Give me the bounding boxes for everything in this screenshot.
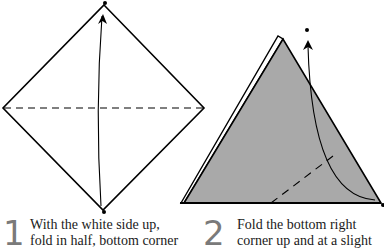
step-1-number: 1: [3, 216, 25, 250]
step-2-number: 2: [203, 216, 225, 250]
step-2-diagram: [180, 28, 384, 207]
step-1-instruction: With the white side up, fold in half, bo…: [30, 217, 178, 249]
step-2-instruction: Fold the bottom right corner up and at a…: [237, 217, 372, 249]
step-2-line-2: corner up and at a slight: [237, 233, 372, 249]
step-1-diagram: [3, 1, 204, 214]
top-corner-dot-icon: [103, 1, 107, 5]
step-1-line-1: With the white side up,: [30, 217, 178, 233]
triangle-paper-colored: [184, 39, 381, 203]
target-dot-icon: [305, 28, 309, 32]
step-2-line-1: Fold the bottom right: [237, 217, 372, 233]
step-1-line-2: fold in half, bottom corner: [30, 233, 178, 249]
bottom-corner-dot-icon: [102, 210, 106, 214]
